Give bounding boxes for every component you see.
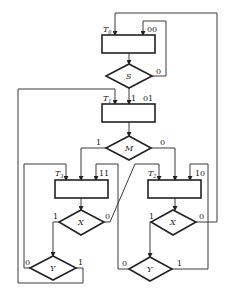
state-t1-name: T1	[103, 94, 112, 104]
state-t0-name: T0	[103, 25, 112, 35]
asm-chart: S M X Y X Y T0 T1 T3 T2 00 01 11 10 0 1 …	[0, 0, 227, 295]
m-yes-label: 1	[96, 138, 101, 147]
state-t1-code: 01	[143, 94, 153, 103]
decision-x-left-label: X	[77, 218, 84, 227]
y-left-yes-label: 1	[78, 258, 83, 267]
state-box-t0	[102, 35, 155, 53]
m-no-label: 0	[160, 138, 165, 147]
x-right-yes-label: 1	[149, 212, 154, 221]
decision-y-right-label: Y	[147, 265, 153, 274]
state-t2-code: 10	[195, 169, 205, 178]
y-left-no-label: 0	[25, 258, 30, 267]
state-t3-name: T3	[55, 169, 64, 179]
decision-x-right-label: X	[169, 218, 176, 227]
state-t0-code: 00	[147, 25, 157, 34]
state-box-t1	[102, 104, 155, 122]
decision-s-label: S	[126, 72, 132, 81]
state-t3-code: 11	[99, 169, 109, 178]
s-no-label: 0	[156, 67, 161, 76]
state-t2-name: T2	[148, 169, 157, 179]
y-right-no-label: 0	[122, 259, 127, 268]
s-yes-label: 1	[131, 94, 136, 103]
state-box-t2	[148, 180, 201, 198]
decision-m-label: M	[124, 144, 134, 153]
x-left-no-label: 0	[105, 212, 110, 221]
y-right-yes-label: 1	[177, 259, 182, 268]
x-right-no-label: 0	[199, 212, 204, 221]
state-box-t3	[55, 180, 108, 198]
x-left-yes-label: 1	[53, 212, 58, 221]
decision-y-left-label: Y	[50, 264, 56, 273]
